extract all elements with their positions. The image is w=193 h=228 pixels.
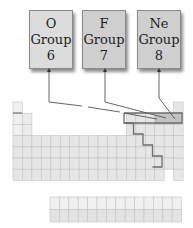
element-cell [13, 113, 22, 124]
element-cell [117, 147, 126, 158]
element-cell [41, 136, 50, 147]
element-cell [174, 147, 183, 158]
lanthanide-actinide-rows [50, 197, 182, 222]
element-cell [79, 158, 88, 169]
element-cell [60, 169, 69, 180]
actinide-cell [59, 210, 68, 223]
element-cell [145, 169, 154, 180]
lanthanide-cell [116, 197, 125, 210]
element-cell [79, 136, 88, 147]
element-cell [174, 136, 183, 147]
element-cell [155, 136, 164, 147]
element-cell [13, 136, 22, 147]
element-cell [51, 136, 60, 147]
element-cell [79, 169, 88, 180]
element-cell [13, 158, 22, 169]
element-cell [60, 158, 69, 169]
element-cell [174, 124, 183, 135]
element-cell [108, 158, 117, 169]
element-cell [174, 102, 183, 113]
element-cell [126, 136, 135, 147]
lanthanide-cell [97, 197, 106, 210]
oxygen-arrow-cont [88, 107, 120, 112]
element-cell [70, 169, 79, 180]
element-cell [70, 158, 79, 169]
element-cell [32, 169, 41, 180]
element-cell [60, 147, 69, 158]
lanthanide-cell [88, 197, 97, 210]
actinide-cell [125, 210, 134, 223]
element-cell [22, 124, 31, 135]
element-cell [32, 136, 41, 147]
element-cell [174, 169, 183, 180]
element-cell [51, 169, 60, 180]
oxygen-arrow [49, 70, 82, 106]
element-cell [164, 136, 173, 147]
actinide-cell [69, 210, 78, 223]
actinide-cell [172, 210, 181, 223]
element-cell [126, 169, 135, 180]
element-cell [155, 124, 164, 135]
element-cell [13, 169, 22, 180]
element-cell [22, 147, 31, 158]
arrowhead-icon [47, 68, 51, 72]
lanthanide-cell [59, 197, 68, 210]
element-cell [136, 169, 145, 180]
actinide-cell [106, 210, 115, 223]
element-cell [13, 124, 22, 135]
element-cell [126, 158, 135, 169]
element-cell [60, 136, 69, 147]
element-cell [79, 147, 88, 158]
element-cell [22, 158, 31, 169]
element-cell [164, 158, 173, 169]
lanthanide-cell [153, 197, 162, 210]
actinide-cell [88, 210, 97, 223]
element-cell [108, 136, 117, 147]
periodic-table-cells [13, 102, 183, 180]
arrows [49, 70, 175, 119]
actinide-cell [153, 210, 162, 223]
actinide-cell [97, 210, 106, 223]
actinide-cell [116, 210, 125, 223]
actinide-cell [163, 210, 172, 223]
element-cell [164, 124, 173, 135]
element-cell [108, 169, 117, 180]
element-cell [155, 169, 164, 180]
element-cell [126, 147, 135, 158]
lanthanide-cell [106, 197, 115, 210]
lanthanide-cell [163, 197, 172, 210]
element-cell [98, 147, 107, 158]
arrowhead-icon [157, 68, 161, 72]
element-cell [136, 147, 145, 158]
actinide-cell [144, 210, 153, 223]
element-cell [51, 158, 60, 169]
element-cell [89, 136, 98, 147]
arrowhead-icon [103, 68, 107, 72]
actinide-cell [135, 210, 144, 223]
lanthanide-cell [172, 197, 181, 210]
element-cell [41, 147, 50, 158]
element-cell [22, 169, 31, 180]
element-cell [89, 147, 98, 158]
element-cell [98, 158, 107, 169]
element-cell [145, 124, 154, 135]
element-cell [174, 158, 183, 169]
lanthanide-cell [78, 197, 87, 210]
element-cell [164, 147, 173, 158]
element-cell [108, 147, 117, 158]
lanthanide-cell [125, 197, 134, 210]
element-cell [98, 136, 107, 147]
element-cell [117, 136, 126, 147]
element-cell [41, 158, 50, 169]
element-cell [117, 169, 126, 180]
lanthanide-cell [50, 197, 59, 210]
arrowheads [47, 68, 161, 72]
element-cell [70, 136, 79, 147]
element-cell [70, 147, 79, 158]
lanthanide-cell [69, 197, 78, 210]
element-cell [89, 169, 98, 180]
element-cell [51, 147, 60, 158]
lanthanide-cell [135, 197, 144, 210]
element-cell [13, 102, 22, 113]
periodic-table-diagram [0, 0, 193, 228]
